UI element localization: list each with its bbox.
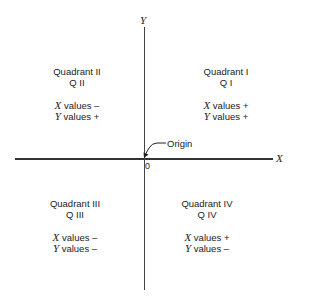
y-sign-text: values + [61, 111, 99, 122]
quadrant-title: Quadrant II [32, 66, 122, 77]
quadrant-4: Quadrant IV Q IV X values + Y values – [162, 198, 252, 254]
y-sign-text: values – [59, 243, 97, 254]
y-sign-text: values + [210, 111, 248, 122]
x-sign-text: values + [210, 100, 248, 111]
quadrant-title: Quadrant III [30, 198, 120, 209]
quadrant-1: Quadrant I Q I X values + Y values + [181, 66, 271, 122]
quadrant-short: Q IV [162, 209, 252, 220]
x-sign-text: values – [59, 232, 97, 243]
origin-label: Origin [167, 138, 192, 149]
quadrant-2: Quadrant II Q II X values – Y values + [32, 66, 122, 122]
origin-zero-label: 0 [145, 161, 150, 171]
quadrant-short: Q I [181, 77, 271, 88]
x-sign-text: values – [61, 100, 99, 111]
quadrant-title: Quadrant I [181, 66, 271, 77]
quadrant-title: Quadrant IV [162, 198, 252, 209]
quadrant-3: Quadrant III Q III X values – Y values – [30, 198, 120, 254]
quadrant-short: Q II [32, 77, 122, 88]
quadrant-short: Q III [30, 209, 120, 220]
origin-arrow-icon [140, 140, 170, 162]
x-axis-label: X [276, 152, 283, 164]
x-sign-text: values + [191, 232, 229, 243]
y-axis-label: Y [140, 14, 146, 26]
y-sign-text: values – [191, 243, 229, 254]
